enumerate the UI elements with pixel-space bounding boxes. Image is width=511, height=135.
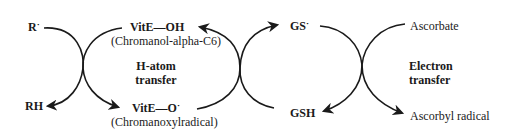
gs-radical-label: GS· — [290, 20, 309, 32]
electron-transfer-label: Electron transfer — [409, 60, 453, 86]
ascorbate-label: Ascorbate — [410, 20, 459, 32]
arrow-gs-to-gsh — [320, 26, 362, 111]
h-atom-line1: H-atom — [133, 60, 179, 72]
vitamin-e-regeneration-diagram: R· RH VitE—OH (Chromanol-alpha-C6) H-ato… — [0, 0, 511, 135]
bond-text: — — [156, 101, 168, 115]
arrow-ascorbate-to-ascorbyl — [362, 24, 405, 113]
electron-line2: transfer — [409, 74, 453, 86]
oh-text: OH — [166, 20, 185, 34]
gs-text: GS — [290, 19, 306, 33]
arrow-gsh-to-gs — [240, 25, 277, 108]
bond-text: — — [154, 20, 166, 34]
o-text: O — [168, 101, 177, 115]
chromanoxyl-radical-name: (Chromanoxylradical) — [111, 116, 218, 128]
r-text: R — [28, 20, 37, 34]
h-atom-transfer-label: H-atom transfer — [133, 60, 179, 86]
radical-mark: · — [37, 19, 40, 29]
r-radical-label: R· — [28, 21, 40, 33]
arrow-r-to-rh — [44, 28, 83, 106]
radical-mark: · — [306, 18, 309, 28]
vite-oh-label: VitE—OH — [130, 21, 184, 33]
ascorbyl-radical-label: Ascorbyl radical — [410, 110, 490, 122]
electron-line1: Electron — [409, 60, 453, 72]
vite-o-radical-label: VitE—O· — [132, 102, 180, 114]
vite-text: VitE — [132, 101, 156, 115]
chromanol-name: (Chromanol-alpha-C6) — [111, 35, 221, 47]
vite-text: VitE — [130, 20, 154, 34]
rh-label: RH — [25, 100, 43, 112]
h-atom-line2: transfer — [133, 74, 179, 86]
gsh-label: GSH — [290, 107, 315, 119]
radical-mark: · — [177, 100, 180, 110]
